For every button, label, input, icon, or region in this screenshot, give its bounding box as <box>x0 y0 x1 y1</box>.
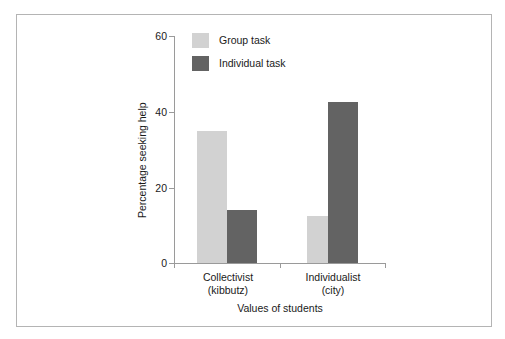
y-axis-title-container: Percentage seeking help <box>123 100 139 220</box>
legend-swatch-group-task <box>192 33 209 48</box>
y-axis-title: Percentage seeking help <box>136 102 148 218</box>
legend-swatch-individual-task <box>192 56 209 71</box>
bar-collectivist-individual-task <box>227 210 257 263</box>
category-label-line-2: (city) <box>278 284 388 297</box>
legend-label-individual-task: Individual task <box>219 56 286 71</box>
x-axis-tick-left <box>174 263 175 268</box>
category-label-line-1: Individualist <box>278 271 388 284</box>
x-axis-title: Values of students <box>174 302 386 314</box>
legend-label-group-task: Group task <box>219 33 270 48</box>
x-axis-category-label-collectivist: Collectivist (kibbutz) <box>173 271 283 297</box>
y-axis-line <box>174 36 175 264</box>
bar-individualist-group-task <box>307 216 328 263</box>
category-label-line-1: Collectivist <box>173 271 283 284</box>
y-axis-tick-60 <box>169 36 175 37</box>
bar-collectivist-group-task <box>197 131 227 263</box>
x-axis-category-label-individualist: Individualist (city) <box>278 271 388 297</box>
y-axis-label-60-wrap: 60 <box>122 31 167 43</box>
y-axis-label-0: 0 <box>127 258 167 269</box>
y-axis-tick-20 <box>169 188 175 189</box>
y-axis-label-60: 60 <box>127 31 167 42</box>
y-axis-label-0-wrap: 0 <box>122 258 167 270</box>
x-axis-tick-middle <box>280 263 281 268</box>
x-axis-tick-right <box>385 263 386 268</box>
figure-container: 60 40 20 0 Percentage seeking help Colle… <box>0 0 505 339</box>
bar-individualist-individual-task <box>328 102 358 263</box>
y-axis-tick-40 <box>169 112 175 113</box>
plot-area: 60 40 20 0 Percentage seeking help Colle… <box>0 0 505 339</box>
category-label-line-2: (kibbutz) <box>173 284 283 297</box>
